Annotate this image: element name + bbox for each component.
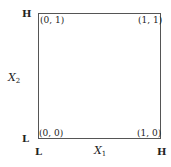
- corner-label-top-right: (1, 1): [138, 15, 162, 25]
- y-axis-low-label: L: [22, 133, 29, 144]
- corner-label-bottom-right: (1, 0): [137, 128, 161, 138]
- design-square: [38, 13, 161, 139]
- corner-label-top-left: (0, 1): [40, 15, 64, 25]
- x-axis-low-label: L: [35, 146, 42, 157]
- y-axis-name: X2: [8, 72, 20, 87]
- x-axis-name: X1: [94, 145, 106, 160]
- corner-label-bottom-left: (0, 0): [39, 128, 63, 138]
- y-axis-high-label: H: [22, 8, 31, 19]
- x-axis-high-label: H: [157, 146, 166, 157]
